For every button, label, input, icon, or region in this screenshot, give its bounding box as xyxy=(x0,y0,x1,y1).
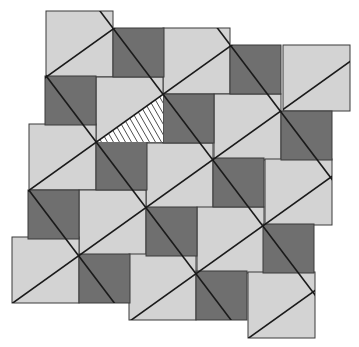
large-square xyxy=(46,11,113,77)
small-square xyxy=(213,158,264,207)
small-square xyxy=(281,111,332,160)
hatch-line xyxy=(0,80,22,150)
small-square xyxy=(96,141,147,190)
hatch-line xyxy=(0,80,16,150)
small-square xyxy=(163,94,214,143)
large-square xyxy=(146,143,213,209)
tiling-diagram xyxy=(0,0,359,347)
large-square xyxy=(283,45,350,111)
small-square xyxy=(146,207,197,256)
large-square xyxy=(79,190,146,256)
small-square xyxy=(230,45,281,94)
large-square xyxy=(265,159,332,225)
large-square xyxy=(197,207,264,273)
large-squares xyxy=(12,11,350,338)
large-square xyxy=(29,124,96,190)
small-square xyxy=(263,224,314,273)
large-square xyxy=(12,237,79,303)
hatch-line xyxy=(0,80,28,150)
large-square xyxy=(129,254,196,320)
small-square xyxy=(79,254,130,303)
large-square xyxy=(214,94,281,160)
small-square xyxy=(196,271,247,320)
large-square xyxy=(163,28,230,94)
small-square xyxy=(113,28,164,77)
small-square xyxy=(28,190,79,239)
